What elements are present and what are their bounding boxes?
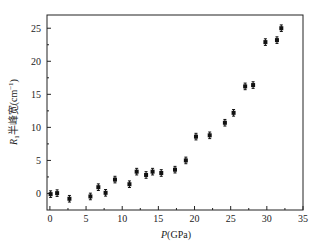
square-marker (151, 170, 155, 174)
square-marker (96, 185, 100, 189)
data-point (151, 168, 155, 175)
x-axis-ticks: 05101520253035 (47, 206, 308, 224)
data-point (173, 166, 177, 173)
square-marker (135, 170, 139, 174)
data-point (251, 82, 255, 89)
x-tick-label: 25 (226, 213, 236, 224)
x-axis-label-italic: P (160, 229, 167, 240)
square-marker (49, 192, 53, 196)
y-tick-label: 10 (31, 122, 41, 133)
data-point (232, 110, 236, 117)
square-marker (232, 111, 236, 115)
y-tick-label: 5 (36, 155, 41, 166)
y-axis-label-italic: R (8, 139, 19, 146)
square-marker (194, 135, 198, 139)
y-tick-label: 0 (36, 188, 41, 199)
square-marker (113, 178, 117, 182)
x-axis-label-unit: (GPa) (167, 229, 191, 241)
scatter-chart: 05101520253035 0510152025 P(GPa) R1半峰宽(c… (0, 0, 322, 248)
x-tick-label: 0 (47, 213, 52, 224)
square-marker (263, 40, 267, 44)
data-point (49, 191, 53, 198)
square-marker (67, 197, 71, 201)
x-tick-label: 5 (84, 213, 89, 224)
square-marker (88, 194, 92, 198)
data-point (104, 190, 108, 197)
y-tick-label: 15 (31, 89, 41, 100)
square-marker (243, 84, 247, 88)
data-point (55, 190, 59, 197)
x-tick-label: 20 (190, 213, 200, 224)
data-points (49, 25, 284, 202)
data-point (263, 39, 267, 46)
square-marker (173, 168, 177, 172)
y-tick-label: 25 (31, 23, 41, 34)
data-point (243, 83, 247, 90)
square-marker (275, 38, 279, 42)
data-point (159, 170, 163, 177)
y-axis-label-close: ) (8, 79, 20, 82)
square-marker (159, 171, 163, 175)
square-marker (208, 133, 212, 137)
x-axis-label: P(GPa) (160, 229, 191, 241)
square-marker (223, 121, 227, 125)
data-point (135, 168, 139, 175)
data-point (67, 195, 71, 202)
x-tick-label: 15 (153, 213, 163, 224)
data-point (194, 133, 198, 140)
square-marker (251, 83, 255, 87)
x-tick-label: 30 (262, 213, 272, 224)
data-point (275, 37, 279, 44)
data-point (113, 176, 117, 183)
square-marker (104, 191, 108, 195)
data-point (127, 181, 131, 188)
data-point (279, 25, 283, 32)
y-axis-label: R1半峰宽(cm−1) (7, 79, 21, 146)
x-tick-label: 35 (298, 213, 308, 224)
data-point (88, 193, 92, 200)
square-marker (144, 173, 148, 177)
x-tick-label: 10 (117, 213, 127, 224)
y-axis-label-text: 半峰宽(cm (7, 90, 20, 136)
square-marker (55, 191, 59, 195)
square-marker (184, 158, 188, 162)
y-tick-label: 20 (31, 56, 41, 67)
data-point (144, 172, 148, 179)
y-axis-ticks: 0510152025 (31, 23, 51, 199)
data-point (184, 157, 188, 164)
data-point (208, 132, 212, 139)
data-point (223, 119, 227, 126)
square-marker (279, 26, 283, 30)
data-point (96, 184, 100, 191)
square-marker (127, 182, 131, 186)
plot-frame (47, 15, 303, 210)
